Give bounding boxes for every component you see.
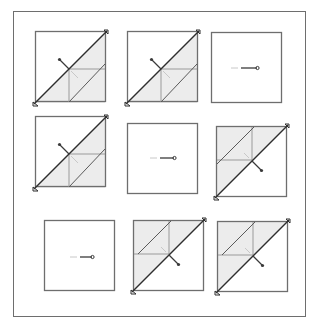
diagonal-fold-icon: [35, 116, 107, 188]
cell-r1c1: [35, 31, 107, 103]
cell-r2c2: [127, 123, 199, 195]
cell-r2c3: [216, 126, 288, 198]
diagonal-fold-icon: [127, 31, 199, 103]
diagonal-fold-icon: [216, 126, 288, 198]
diagonal-fold-icon: [217, 221, 289, 293]
cell-r3c2: [133, 220, 205, 292]
cell-r2c1: [35, 116, 107, 188]
horizontal-pin-icon: [127, 123, 199, 195]
cell-r3c1: [44, 220, 116, 292]
cell-r3c3: [217, 221, 289, 293]
horizontal-pin-icon: [44, 220, 116, 292]
diagonal-fold-icon: [133, 220, 205, 292]
cell-r1c2: [127, 31, 199, 103]
horizontal-pin-icon: [211, 32, 283, 104]
diagonal-fold-icon: [35, 31, 107, 103]
cell-r1c3: [211, 32, 283, 104]
